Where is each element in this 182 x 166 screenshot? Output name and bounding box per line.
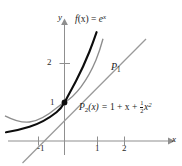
annotation-p2: P2(x) = 1 + x + 12x2 xyxy=(79,100,152,114)
y-axis-arrowhead xyxy=(61,19,68,26)
p2-arg: (x) = xyxy=(88,102,110,112)
f-label-arg: (x) = xyxy=(78,14,99,24)
p2-fraction-one-half: 12 xyxy=(140,100,143,114)
curve-exponential xyxy=(6,32,97,132)
plot-canvas xyxy=(0,0,182,166)
annotation-f-of-x: f(x) = ex xyxy=(75,14,106,25)
tick-label-x-neg1: -1 xyxy=(37,144,45,153)
y-axis-label: y xyxy=(58,13,62,22)
p2-fraction-numerator: 1 xyxy=(140,100,143,107)
tick-label-y-2: 2 xyxy=(47,58,52,67)
annotation-p1: P1 xyxy=(111,62,121,74)
tangency-point-marker xyxy=(62,100,68,106)
f-label-exponent: x xyxy=(103,13,106,20)
p2-tail-exponent: 2 xyxy=(148,101,151,108)
figure-container: y x 2 1 -1 1 2 f(x) = ex P1 P2(x) = 1 + … xyxy=(0,0,182,166)
tick-label-x-2: 2 xyxy=(122,144,127,153)
p1-subscript: 1 xyxy=(117,66,121,74)
p2-fraction-denominator: 2 xyxy=(140,107,143,115)
tick-label-y-1: 1 xyxy=(50,98,55,107)
x-axis-label: x xyxy=(172,135,176,144)
p2-terms: 1 + x + xyxy=(110,102,140,112)
tick-label-x-1: 1 xyxy=(95,144,100,153)
